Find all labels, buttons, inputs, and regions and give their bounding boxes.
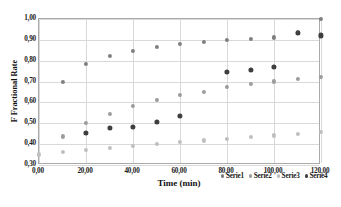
data-point [154,98,158,102]
x-axis-title: Time (min) [38,177,320,189]
gridline-vertical [321,19,322,163]
data-point [154,142,158,146]
data-point [271,64,276,69]
data-point [295,131,299,135]
gridline-vertical [39,19,40,163]
gridline-horizontal [39,40,319,41]
data-point [201,90,205,94]
data-point [272,35,276,39]
data-point [224,69,229,74]
x-tick-label: 100,00 [251,166,295,176]
data-point [131,49,135,53]
data-point [319,74,323,78]
data-point [131,144,135,148]
data-point [225,136,229,140]
y-tick-label: 0,80 [2,56,36,64]
data-point [178,92,182,96]
data-point [60,79,64,83]
y-tick-label: 0,70 [2,77,36,85]
gridline-vertical [274,19,275,163]
x-tick-label: 80,00 [204,166,248,176]
y-tick-label: 0,40 [2,139,36,147]
data-point [272,79,276,83]
data-point [319,130,323,134]
data-point [107,54,111,58]
data-point [248,82,252,86]
data-point [177,113,182,118]
data-point [107,112,111,116]
x-tick-label: 120,00 [298,166,341,176]
data-point [272,133,276,137]
y-tick-label: 0,90 [2,35,36,43]
data-point [248,68,253,73]
y-tick-label: 0,60 [2,97,36,105]
data-point [201,40,205,44]
data-point [201,138,205,142]
gridline-horizontal [39,102,319,103]
data-point [225,38,229,42]
gridline-vertical [133,19,134,163]
data-point [84,121,88,125]
data-point [154,45,158,49]
gridline-horizontal [39,61,319,62]
data-point [60,134,64,138]
data-point [295,30,300,35]
data-point [225,85,229,89]
x-tick-label: 40,00 [110,166,154,176]
x-tick-label: 60,00 [157,166,201,176]
data-point [37,152,41,156]
data-point [130,125,135,130]
data-point [60,150,64,154]
gridline-horizontal [39,123,319,124]
x-tick-label: 20,00 [63,166,107,176]
scatter-chart: F Fractional Rate 0,300,400,500,600,700,… [0,0,341,207]
y-tick-label: 0,50 [2,118,36,126]
gridline-horizontal [39,82,319,83]
data-point [131,104,135,108]
data-point [248,135,252,139]
plot-area: Serie1Serie2Serie3Serie4 [38,18,320,164]
data-point [295,77,299,81]
y-tick-label: 1,00 [2,14,36,22]
gridline-horizontal [39,19,319,20]
data-point [84,148,88,152]
data-point [107,146,111,150]
y-axis-tick-labels: 0,300,400,500,600,700,800,901,00 [0,18,36,164]
data-point [107,125,112,130]
gridline-vertical [86,19,87,163]
gridline-horizontal [39,144,319,145]
data-point [318,33,323,38]
x-tick-label: 0,00 [16,166,60,176]
data-point [83,130,88,135]
data-point [178,42,182,46]
data-point [319,17,323,21]
data-point [84,62,88,66]
